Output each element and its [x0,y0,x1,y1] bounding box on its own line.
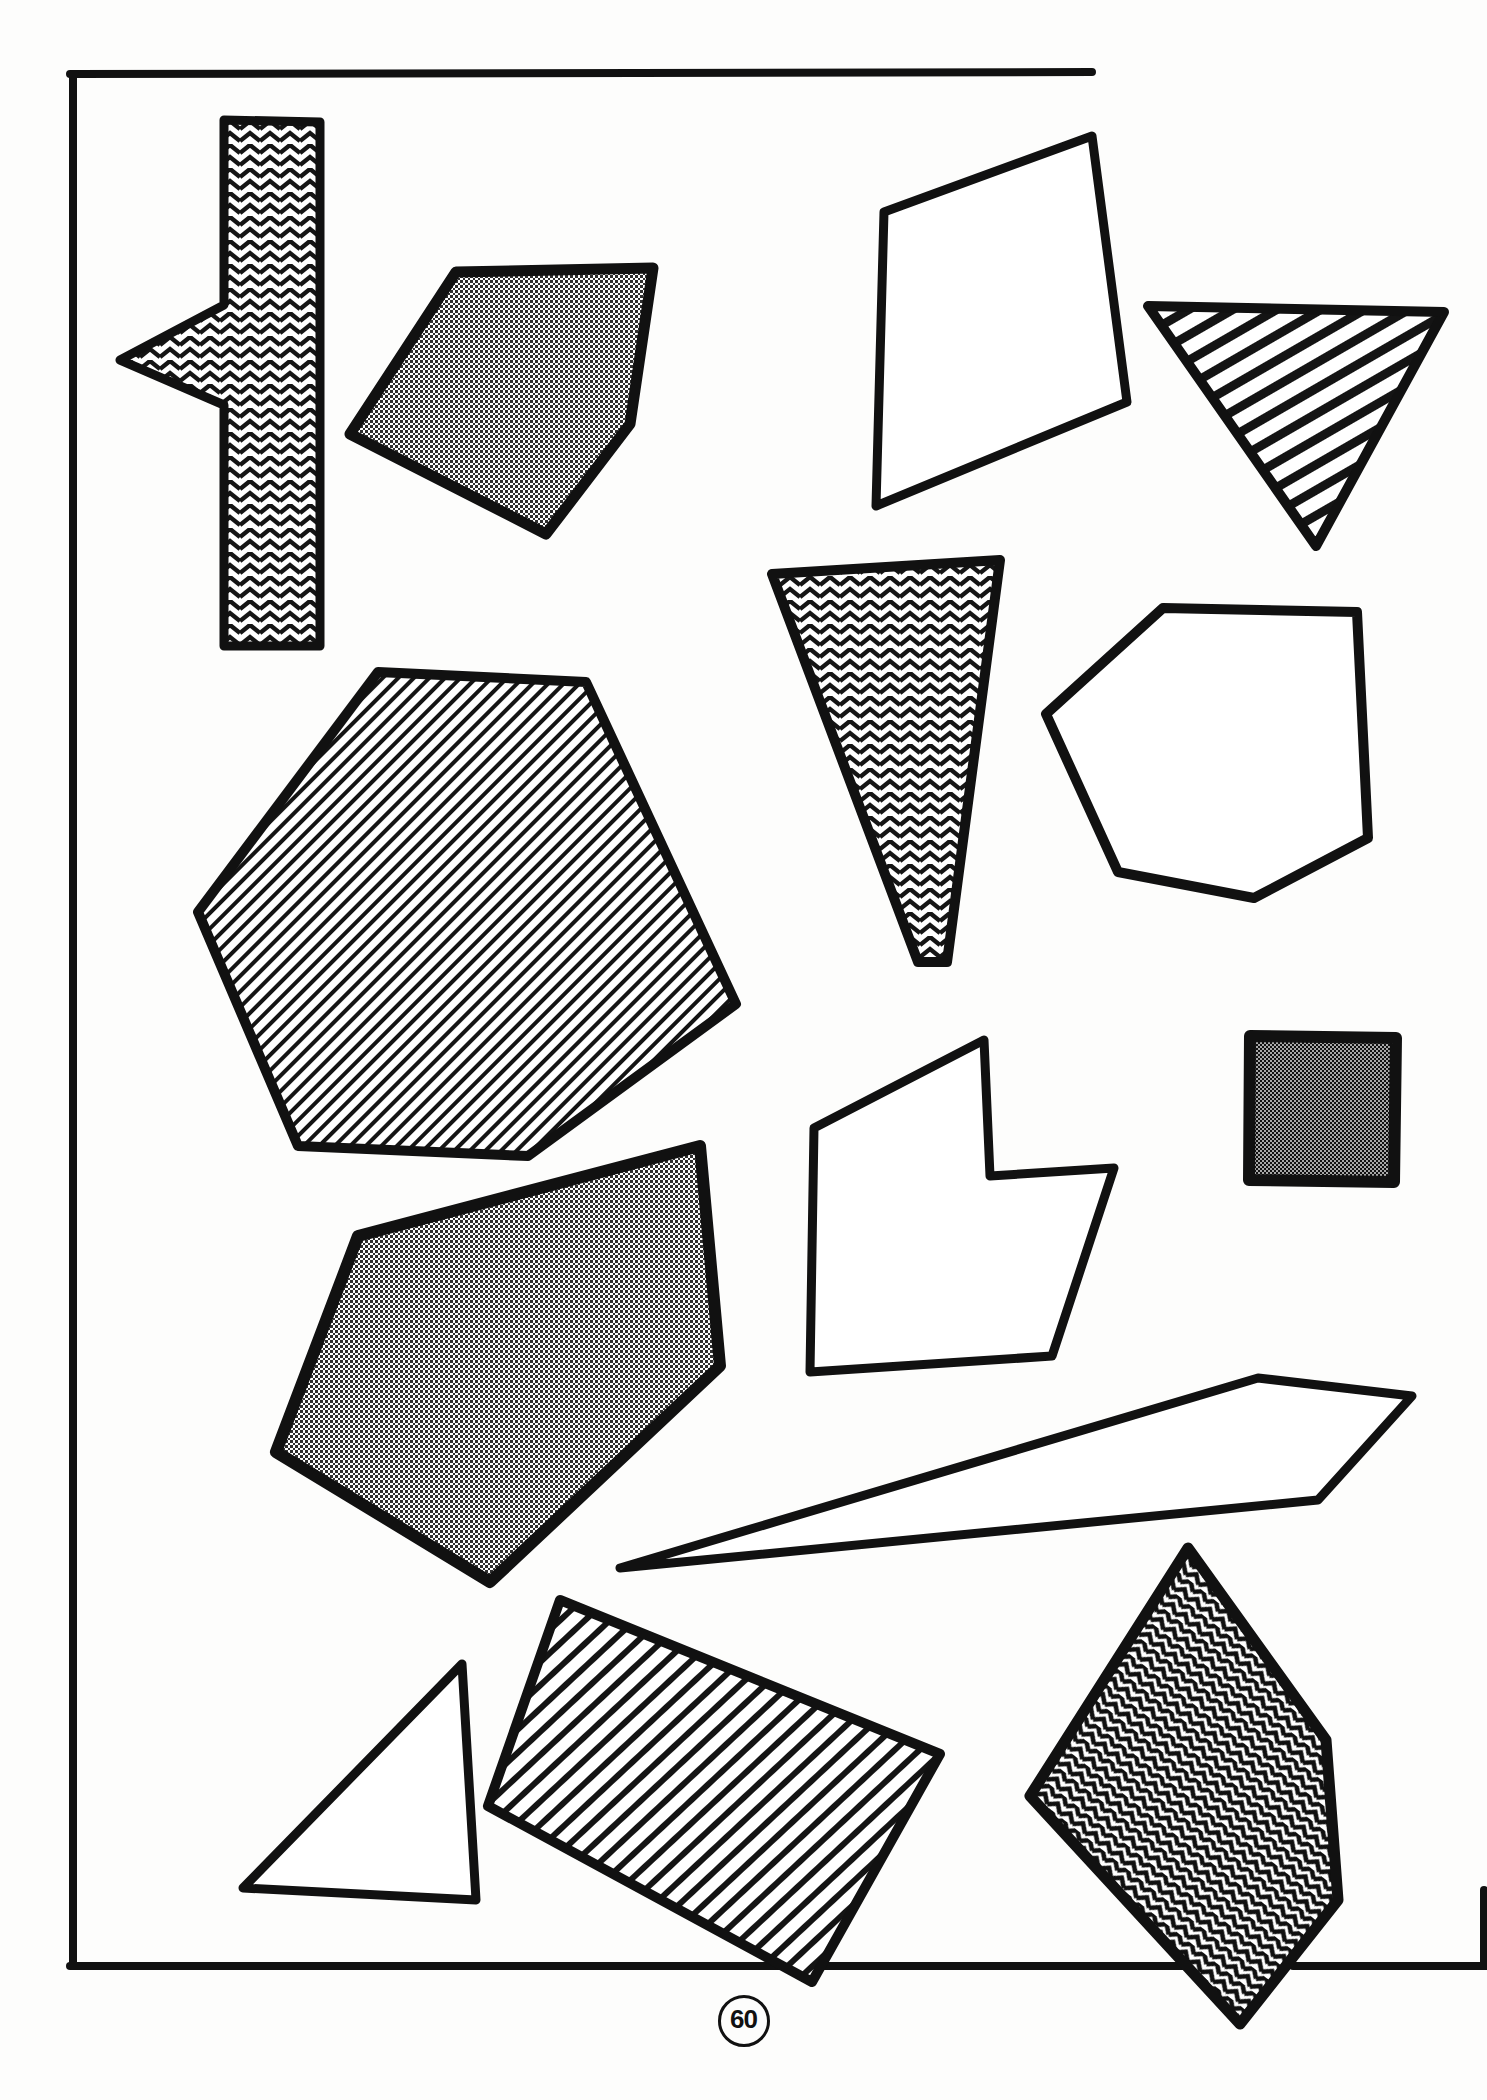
border-top [70,72,1092,74]
shape-canvas [0,0,1487,2100]
open-quadrilateral-top [876,136,1127,506]
dark-square-right [1249,1036,1396,1182]
concave-arrow-polygon [810,1040,1114,1372]
hatched-hexagon-large [198,672,736,1156]
sliver-quadrilateral [620,1378,1412,1568]
gray-pentagon-lower-left [276,1146,720,1582]
chevron-cross-arrow [120,120,320,646]
chevron-triangle-center [772,560,1000,962]
worksheet-page: 60 [0,0,1487,2100]
chevron-kite-bottom-right [1030,1548,1338,2024]
open-heptagon-right [1046,608,1368,898]
hatched-rectangle-bottom [488,1600,940,1982]
gray-pentagon-top-left [350,268,653,534]
hatched-triangle-top-right [1148,306,1444,546]
open-triangle-bottom-left [243,1664,476,1900]
